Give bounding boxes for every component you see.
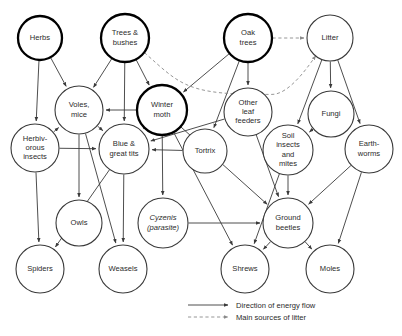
node-winter_moth[interactable]: Wintermoth [137,85,187,135]
node-circle-soil_insects_mites[interactable] [263,125,313,175]
legend-label-energy-flow: Direction of energy flow [236,301,316,310]
node-shrews[interactable]: Shrews [221,245,269,293]
energy-flow-arrow [51,58,66,86]
node-moles[interactable]: Moles [306,245,354,293]
food-web-canvas: HerbsTrees &bushesOaktreesLitterVoles,mi… [0,0,402,336]
node-circle-other_leaf_feeders[interactable] [224,88,272,136]
node-litter[interactable]: Litter [307,15,353,61]
energy-flow-arrow [36,172,39,242]
node-circle-weasels[interactable] [99,245,147,293]
energy-flow-arrow [183,54,229,92]
food-web-diagram: HerbsTrees &bushesOaktreesLitterVoles,mi… [0,0,402,336]
node-herbs[interactable]: Herbs [18,16,62,60]
node-other_leaf_feeders[interactable]: Otherleaffeeders [224,88,272,136]
nodes-layer: HerbsTrees &bushesOaktreesLitterVoles,mi… [11,14,393,293]
node-spiders[interactable]: Spiders [16,245,64,293]
legend: Direction of energy flow Main sources of… [188,301,316,322]
node-tortrix[interactable]: Tortrix [183,129,227,173]
node-circle-trees_bushes[interactable] [101,14,149,62]
node-weasels[interactable]: Weasels [99,245,147,293]
energy-flow-arrow [305,242,312,249]
node-circle-blue_great_tits[interactable] [99,124,149,174]
node-oak_trees[interactable]: Oaktrees [224,14,272,62]
energy-flow-arrow [94,59,112,88]
node-herbivorous_insects[interactable]: Herbiv-orousinsects [11,124,59,172]
node-trees_bushes[interactable]: Trees &bushes [101,14,149,62]
node-voles_mice[interactable]: Voles,mice [55,86,103,134]
node-soil_insects_mites[interactable]: Soilinsectsandmites [263,125,313,175]
node-circle-herbivorous_insects[interactable] [11,124,59,172]
energy-flow-arrow [309,166,351,205]
node-circle-owls[interactable] [56,200,102,246]
node-circle-litter[interactable] [307,15,353,61]
node-circle-moles[interactable] [306,245,354,293]
energy-flow-arrow [54,128,59,132]
legend-label-litter-sources: Main sources of litter [236,313,307,322]
node-circle-oak_trees[interactable] [224,14,272,62]
node-owls[interactable]: Owls [56,200,102,246]
energy-flow-arrow [124,63,125,122]
energy-flow-arrow [152,150,183,151]
node-cyzenis[interactable]: Cyzenis(parasite) [138,198,188,248]
node-circle-ground_beetles[interactable] [263,198,313,248]
node-circle-herbs[interactable] [18,16,62,60]
energy-flow-arrow [162,136,163,196]
energy-flow-arrow [338,172,361,243]
energy-flow-arrow [98,126,103,131]
energy-flow-arrow [309,129,313,132]
node-circle-earthworms[interactable] [345,125,393,173]
energy-flow-arrow [123,175,124,243]
node-circle-voles_mice[interactable] [55,86,103,134]
node-circle-spiders[interactable] [16,245,64,293]
node-blue_great_tits[interactable]: Blue &great tits [99,124,149,174]
node-circle-fungi[interactable] [308,91,354,137]
node-earthworms[interactable]: Earth-worms [345,125,393,173]
node-ground_beetles[interactable]: Groundbeetles [263,198,313,248]
node-circle-cyzenis[interactable] [138,198,188,248]
energy-flow-arrow [136,60,149,85]
energy-flow-arrow [263,242,270,250]
node-circle-winter_moth[interactable] [137,85,187,135]
energy-flow-arrow [36,60,39,121]
node-circle-shrews[interactable] [221,245,269,293]
node-fungi[interactable]: Fungi [308,91,354,137]
node-circle-tortrix[interactable] [183,129,227,173]
